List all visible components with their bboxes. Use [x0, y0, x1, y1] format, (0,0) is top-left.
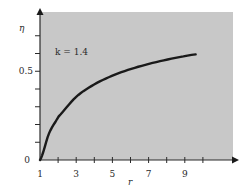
x-tick-labels: 13579 [37, 169, 188, 179]
x-tick-label: 1 [37, 169, 43, 179]
x-tick-label: 7 [146, 169, 152, 179]
x-axis-label: r [128, 177, 133, 187]
plot-background [40, 12, 233, 160]
y-axis-ticks [35, 36, 40, 143]
y-tick-label: 0 [24, 155, 30, 165]
x-tick-label: 9 [182, 169, 188, 179]
x-tick-label: 5 [110, 169, 116, 179]
y-axis-label: η [19, 23, 25, 33]
chart: η r k = 1.4 13579 00.5 [0, 0, 252, 196]
x-axis-arrow-icon [232, 157, 239, 164]
y-axis-arrow-icon [37, 8, 44, 15]
y-tick-labels: 00.5 [19, 66, 34, 165]
x-tick-label: 3 [73, 169, 79, 179]
y-tick-label: 0.5 [19, 66, 34, 76]
curve-annotation: k = 1.4 [55, 47, 88, 57]
